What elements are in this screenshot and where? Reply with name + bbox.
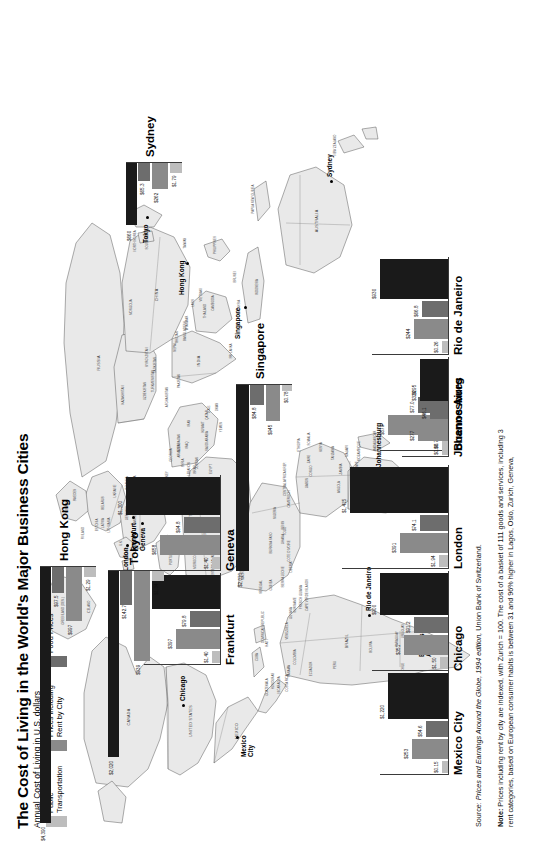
bar-group-rio-de-janeiro: $0.26 $244 $66.8 $930 Rio de Janeiro <box>300 257 450 355</box>
bar-rent <box>66 567 82 621</box>
svg-text:LEBANON: LEBANON <box>187 462 191 476</box>
baseline-axis <box>220 573 221 665</box>
bar-value-food: $142.7 <box>122 605 127 619</box>
bar-value-public-transportation: $0.15 <box>434 762 439 774</box>
bar-value-food: $79.8 <box>182 616 187 628</box>
bar-group-city-label: Rio de Janeiro <box>452 276 464 355</box>
baseline-axis <box>448 257 449 355</box>
bar-total <box>236 385 249 571</box>
bar-food <box>120 571 132 605</box>
bar-value-total: $930 <box>372 289 377 299</box>
svg-text:BHUTAN: BHUTAN <box>175 331 179 343</box>
city-dot-hong-kong <box>186 262 189 265</box>
bar-food <box>52 567 64 593</box>
bar-value-total: $660 <box>127 231 132 241</box>
bar-food <box>414 617 448 633</box>
city-dot-mexico-city <box>236 736 239 739</box>
bar-value-rent: $658 <box>152 545 157 555</box>
bar-group-hong-kong: $1.29 $997 $97.5 $4,390 Hong Kong <box>40 563 96 823</box>
bar-rent <box>176 629 220 649</box>
bar-public-transportation <box>170 163 182 173</box>
bar-group-city-label: London <box>452 527 464 569</box>
svg-text:GUINEA: GUINEA <box>269 579 273 590</box>
bar-value-public-transportation: $1.94 <box>431 556 436 568</box>
bar-value-food: $46.1 <box>422 408 427 420</box>
svg-text:SURINAME: SURINAME <box>293 597 297 612</box>
svg-text:OMAN: OMAN <box>215 403 219 412</box>
city-dot-sydney <box>330 180 333 183</box>
svg-text:IRAQ: IRAQ <box>185 441 189 449</box>
bar-public-transportation <box>152 571 164 581</box>
svg-text:BRUNEI: BRUNEI <box>233 271 237 282</box>
bar-rent <box>414 319 448 339</box>
bar-public-transportation <box>212 651 220 663</box>
svg-text:UNITED STATES: UNITED STATES <box>189 705 193 737</box>
svg-text:PANAMA: PANAMA <box>287 665 291 677</box>
bar-value-total: $1,300 <box>118 501 123 515</box>
svg-text:MYANMAR: MYANMAR <box>185 316 189 331</box>
bar-public-transportation <box>212 557 220 569</box>
bar-group-city-label: Johannesburg <box>452 378 464 457</box>
value-axis <box>372 354 449 355</box>
svg-text:MONGOLIA: MONGOLIA <box>129 299 133 315</box>
svg-text:CAMBODIA: CAMBODIA <box>211 295 215 310</box>
bar-rent <box>152 163 168 189</box>
bar-value-public-transportation: $1.79 <box>172 176 177 188</box>
bar-group-chicago: $1.50 $351 $91.2 $900 Chicago <box>300 571 450 671</box>
infographic-canvas: CANADA UNITED STATES MEXICO BRAZIL RUSSI… <box>0 0 542 843</box>
bar-public-transportation <box>442 761 448 773</box>
svg-text:PAKISTAN: PAKISTAN <box>177 374 181 388</box>
bar-value-total: $2,070 <box>238 573 243 587</box>
bar-value-public-transportation: $1.29 <box>86 580 91 592</box>
bar-group-mexico-city: $0.15 $253 $54.6 $1,220 Mexico City <box>300 671 450 775</box>
bar-value-public-transportation: $0.66 <box>434 444 439 456</box>
bar-group-city-label: Singapore <box>254 323 266 379</box>
svg-text:CUBA: CUBA <box>255 653 259 661</box>
bar-group-geneva: $1.40 $658 $94.8 $1,300 Geneva <box>72 475 222 571</box>
bar-value-public-transportation: $0.78 <box>284 392 289 404</box>
baseline-axis <box>448 671 449 775</box>
bar-group-city-label: Chicago <box>452 626 464 671</box>
svg-text:UZBEKISTAN: UZBEKISTAN <box>143 382 147 400</box>
bar-value-rent: $244 <box>406 329 411 339</box>
svg-text:KUWAIT: KUWAIT <box>201 421 205 432</box>
svg-text:LAOS: LAOS <box>191 299 195 307</box>
bar-value-rent: $262 <box>154 193 159 203</box>
bar-value-rent: $945 <box>268 425 273 435</box>
svg-text:INDIA: INDIA <box>197 355 201 366</box>
value-axis <box>342 568 449 569</box>
bar-value-public-transportation: $1.40 <box>204 558 209 570</box>
bar-total <box>40 567 51 823</box>
bar-total <box>126 477 220 515</box>
bar-food <box>184 517 220 533</box>
bar-food <box>250 385 264 405</box>
bar-group-city-label: Hong Kong <box>58 499 70 561</box>
bar-value-rent: $939 <box>136 665 141 675</box>
bar-value-total: $900 <box>372 605 377 615</box>
bar-food <box>138 163 150 181</box>
bar-group-city-label: Tokyo <box>128 532 140 565</box>
bar-food <box>430 403 448 419</box>
bar-value-total: $1,220 <box>380 705 385 719</box>
svg-text:JORDAN: JORDAN <box>195 457 199 469</box>
svg-text:AFGHANISTAN: AFGHANISTAN <box>165 387 169 407</box>
svg-text:SAUDI ARABIA: SAUDI ARABIA <box>205 431 209 451</box>
bar-value-food: $91.2 <box>406 622 411 634</box>
baseline-axis <box>448 571 449 671</box>
svg-text:SENEGAL: SENEGAL <box>259 580 263 594</box>
bar-group-singapore: $0.78 $945 $84.8 $2,070 Singapore <box>236 381 292 571</box>
svg-text:SRI LANKA: SRI LANKA <box>229 343 233 358</box>
bar-public-transportation <box>84 567 96 577</box>
bar-value-rent: $351 <box>396 645 401 655</box>
svg-text:HONDURAS: HONDURAS <box>271 673 275 690</box>
source-note: Source: Prices and Earnings Around the G… <box>474 544 483 827</box>
bar-rent <box>266 385 280 421</box>
svg-text:PHILIPPINES: PHILIPPINES <box>213 236 217 254</box>
bar-value-food: $94.8 <box>176 522 181 534</box>
svg-text:TAJIKISTAN: TAJIKISTAN <box>153 357 157 373</box>
bar-group-city-label: Geneva <box>224 529 236 571</box>
bar-rent <box>412 739 448 759</box>
svg-text:IRAN: IRAN <box>187 420 191 427</box>
bar-total <box>420 375 448 401</box>
svg-text:NICARAGUA: NICARAGUA <box>277 676 281 693</box>
